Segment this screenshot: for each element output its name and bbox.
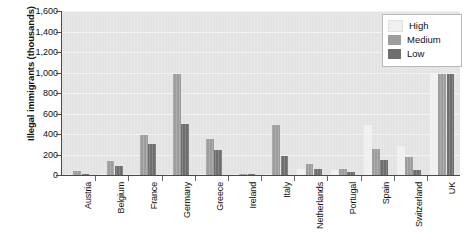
bar-medium <box>206 139 214 175</box>
legend-swatch-medium <box>388 35 401 45</box>
bar-group <box>165 11 190 175</box>
bar-medium <box>107 161 115 175</box>
x-tick-mark <box>261 176 262 181</box>
legend-swatch-high <box>388 20 403 32</box>
x-category-label: Switzerland <box>414 182 424 227</box>
y-tick-mark <box>56 134 61 135</box>
x-axis-category-labels: AustriaBelgiumFranceGermanyGreeceIreland… <box>62 182 460 248</box>
bar-medium <box>339 169 347 175</box>
bar-high <box>165 174 173 175</box>
bar-low <box>380 160 388 175</box>
y-tick-mark <box>56 93 61 94</box>
bar-group <box>198 11 223 175</box>
x-category-label: Austria <box>83 182 93 209</box>
x-category-label: UK <box>447 182 457 194</box>
bar-high <box>430 74 438 175</box>
bar-low <box>447 74 455 175</box>
bar-group <box>231 11 256 175</box>
bar-high <box>397 146 405 175</box>
bar-low <box>115 166 123 175</box>
bar-high <box>297 169 305 175</box>
x-tick-mark <box>394 176 395 181</box>
x-tick-mark <box>128 176 129 181</box>
chart-legend: HighMediumLow <box>382 14 462 67</box>
legend-item[interactable]: High <box>388 19 456 33</box>
legend-label: Low <box>407 49 424 59</box>
x-category-label: Italy <box>282 182 292 198</box>
bar-low <box>248 174 256 175</box>
legend-item[interactable]: Low <box>388 47 456 61</box>
x-category-label: Portugal <box>348 182 358 214</box>
bar-high <box>364 125 372 175</box>
y-tick-mark <box>56 52 61 53</box>
x-category-label: Belgium <box>116 182 126 213</box>
y-tick-label: 600 <box>18 109 58 119</box>
y-tick-label: 1,000 <box>18 68 58 78</box>
x-category-label: Netherlands <box>315 182 325 229</box>
x-tick-mark <box>294 176 295 181</box>
x-tick-mark <box>162 176 163 181</box>
bar-high <box>65 174 73 175</box>
bar-high <box>132 174 140 175</box>
bar-group <box>331 11 356 175</box>
bar-medium <box>306 164 314 175</box>
y-axis-tick-labels: 02004006008001,0001,2001,4001,600 <box>18 11 58 175</box>
bar-medium <box>173 74 181 175</box>
bar-low <box>181 124 189 175</box>
y-tick-mark <box>56 114 61 115</box>
x-tick-mark <box>427 176 428 181</box>
bar-high <box>231 174 239 175</box>
bar-low <box>347 172 355 175</box>
x-category-label: Ireland <box>248 182 258 208</box>
y-tick-label: 1,600 <box>18 6 58 16</box>
x-tick-mark <box>228 176 229 181</box>
y-tick-mark <box>56 73 61 74</box>
y-tick-label: 400 <box>18 129 58 139</box>
bar-low <box>148 144 156 175</box>
bar-low <box>314 169 322 175</box>
x-tick-mark <box>361 176 362 181</box>
legend-label: High <box>409 21 429 31</box>
bar-chart: Illegal immigrants (thousands) 020040060… <box>0 0 470 250</box>
bar-low <box>82 174 90 175</box>
bar-medium <box>140 135 148 175</box>
legend-item[interactable]: Medium <box>388 33 456 47</box>
bar-low <box>413 170 421 175</box>
x-category-label: Greece <box>215 182 225 211</box>
bar-group <box>264 11 289 175</box>
x-category-label: Germany <box>182 182 192 218</box>
bar-high <box>98 174 106 175</box>
x-tick-mark <box>95 176 96 181</box>
bar-medium <box>438 74 446 175</box>
x-category-label: France <box>149 182 159 209</box>
y-tick-mark <box>56 155 61 156</box>
y-tick-label: 0 <box>18 170 58 180</box>
bar-medium <box>405 157 413 175</box>
bar-high <box>264 174 272 175</box>
bar-low <box>214 150 222 175</box>
legend-swatch-low <box>388 49 401 59</box>
x-tick-mark <box>195 176 196 181</box>
bar-medium <box>272 125 280 175</box>
bar-group <box>65 11 90 175</box>
y-tick-label: 1,400 <box>18 27 58 37</box>
y-tick-label: 800 <box>18 88 58 98</box>
bar-high <box>198 174 206 175</box>
y-tick-mark <box>56 11 61 12</box>
x-category-label: Spain <box>381 182 391 204</box>
bar-medium <box>239 174 247 175</box>
bar-group <box>98 11 123 175</box>
bar-group <box>132 11 157 175</box>
y-tick-label: 200 <box>18 150 58 160</box>
y-tick-mark <box>56 32 61 33</box>
bar-medium <box>73 171 81 175</box>
bar-high <box>331 170 339 175</box>
bar-group <box>297 11 322 175</box>
legend-label: Medium <box>407 35 441 45</box>
x-tick-mark <box>327 176 328 181</box>
bar-low <box>281 156 289 175</box>
y-tick-mark <box>56 175 61 176</box>
bar-medium <box>372 149 380 175</box>
y-tick-label: 1,200 <box>18 47 58 57</box>
